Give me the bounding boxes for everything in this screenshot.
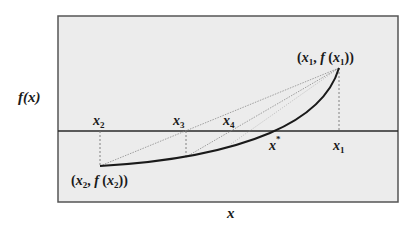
- point-label-x1: (x1, f (x1)): [297, 50, 354, 67]
- y-axis-label: f(x): [18, 89, 41, 106]
- diagram-canvas: f(x) x (x1, f (x1)) (x2, f (x2)) x2 x3 x…: [0, 0, 418, 225]
- secant-method-diagram: f(x) x (x1, f (x1)) (x2, f (x2)) x2 x3 x…: [0, 0, 418, 225]
- point-label-x2: (x2, f (x2)): [71, 173, 128, 190]
- x-axis-label: x: [226, 205, 235, 221]
